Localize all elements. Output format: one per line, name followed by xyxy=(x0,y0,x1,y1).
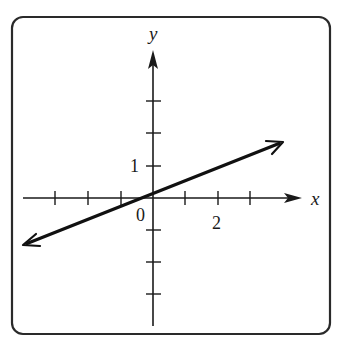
y-tick-label-1: 1 xyxy=(130,156,139,176)
x-axis-label: x xyxy=(310,188,320,209)
x-axis xyxy=(23,191,302,205)
y-axis-label: y xyxy=(147,23,158,44)
x-tick-label-2: 2 xyxy=(212,213,221,233)
y-axis xyxy=(146,50,161,326)
chart-frame xyxy=(12,17,330,334)
chart-figure: y x 1 0 2 xyxy=(0,0,337,343)
origin-label: 0 xyxy=(136,205,145,225)
